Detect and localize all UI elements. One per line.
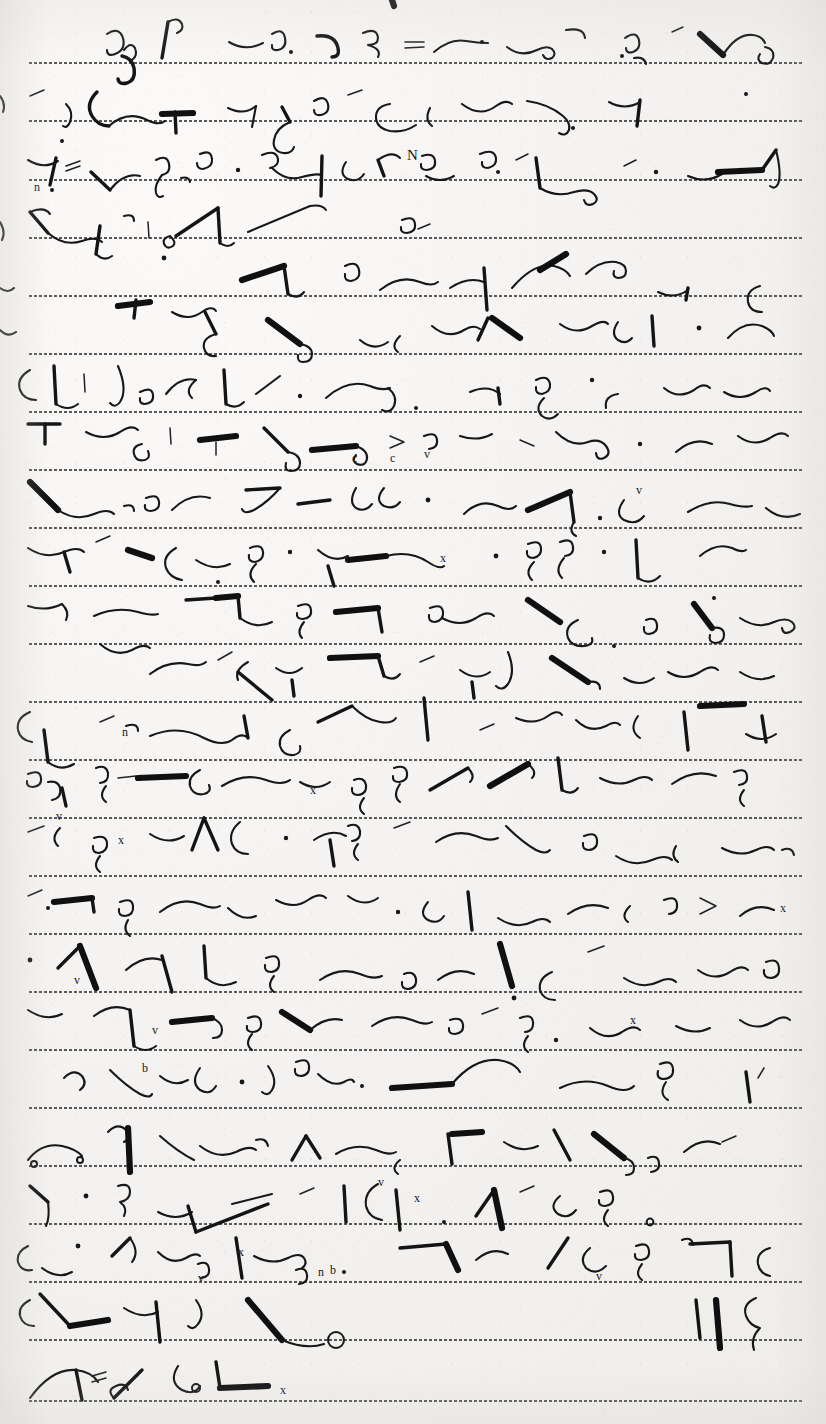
shorthand-page: n N: [0, 0, 826, 1424]
paper-vignette: [0, 0, 826, 1424]
